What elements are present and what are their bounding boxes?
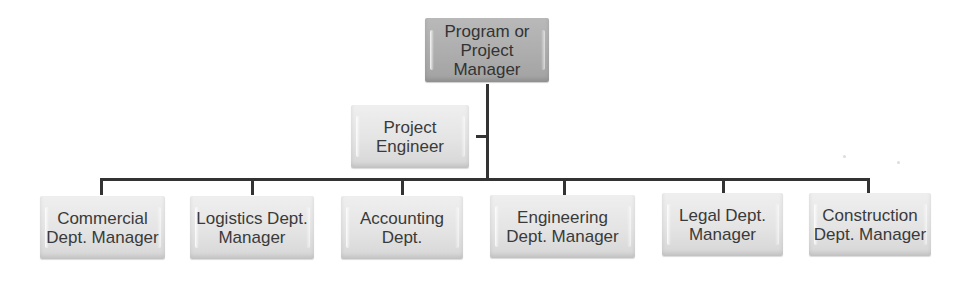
node-label: Project Engineer	[376, 118, 444, 156]
node-logistics-dept-manager[interactable]: Logistics Dept. Manager	[190, 196, 314, 259]
node-accounting-dept[interactable]: Accounting Dept.	[341, 196, 463, 259]
connector-dept-3	[401, 178, 404, 195]
org-chart: Program or Project Manager Project Engin…	[0, 0, 973, 284]
node-engineering-dept-manager[interactable]: Engineering Dept. Manager	[490, 195, 635, 258]
connector-root-vertical	[486, 84, 489, 180]
node-label: Construction Dept. Manager	[814, 206, 926, 244]
node-label: Legal Dept. Manager	[679, 206, 766, 244]
node-label: Engineering Dept. Manager	[506, 208, 618, 246]
node-label: Commercial Dept. Manager	[46, 209, 158, 247]
connector-dept-1	[100, 178, 103, 195]
node-label: Logistics Dept. Manager	[196, 209, 308, 247]
connector-staff-horizontal	[476, 135, 488, 138]
node-label: Program or Project Manager	[444, 22, 529, 79]
node-program-project-manager[interactable]: Program or Project Manager	[425, 18, 549, 82]
node-label: Accounting Dept.	[360, 209, 444, 247]
scan-artifact	[843, 155, 846, 158]
connector-department-bus	[100, 178, 870, 181]
connector-dept-2	[251, 178, 254, 195]
node-project-engineer[interactable]: Project Engineer	[351, 105, 469, 168]
connector-dept-4	[563, 178, 566, 195]
scan-artifact	[897, 161, 900, 164]
node-commercial-dept-manager[interactable]: Commercial Dept. Manager	[40, 196, 165, 259]
node-legal-dept-manager[interactable]: Legal Dept. Manager	[662, 193, 783, 256]
node-construction-dept-manager[interactable]: Construction Dept. Manager	[809, 193, 931, 256]
